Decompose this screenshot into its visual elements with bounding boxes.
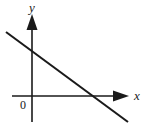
x-axis-label: x: [134, 89, 140, 102]
x-axis-arrowhead: [113, 91, 129, 102]
y-axis-arrowhead: [27, 14, 38, 30]
coordinate-plane-figure: y x 0: [0, 0, 147, 130]
origin-label: 0: [20, 99, 26, 111]
y-axis-label: y: [29, 1, 35, 14]
